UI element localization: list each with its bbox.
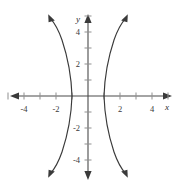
y-axis-up-arrow-icon [84, 14, 91, 23]
curve-arrow-lower-right-icon [121, 170, 128, 178]
curve-arrow-upper-left-icon [48, 14, 55, 22]
x-tick-label-2: 2 [118, 104, 122, 114]
y-tick-label-2: 2 [76, 59, 80, 69]
x-tick-label--4: -4 [20, 104, 28, 114]
curve-arrow-lower-left-icon [48, 170, 55, 178]
x-tick-label--2: -2 [52, 104, 59, 114]
curve-right-upper [104, 18, 126, 96]
x-axis-left-arrow-icon [10, 92, 19, 99]
x-axis-label: x [164, 102, 169, 112]
curve-right-lower [104, 96, 126, 174]
y-axis-down-arrow-icon [84, 171, 91, 180]
curve-arrow-upper-right-icon [121, 14, 128, 22]
coordinate-plane-svg: -4 -2 2 4 4 2 -2 -4 x y [0, 0, 182, 188]
curve-left-upper [50, 18, 72, 96]
y-tick-label-4: 4 [76, 27, 81, 37]
axes-group [10, 14, 172, 180]
y-tick-label--4: -4 [73, 155, 81, 165]
x-tick-label-4: 4 [150, 104, 155, 114]
graph-figure: -4 -2 2 4 4 2 -2 -4 x y [0, 0, 182, 188]
y-tick-label--2: -2 [73, 123, 80, 133]
y-axis-label: y [75, 14, 80, 24]
